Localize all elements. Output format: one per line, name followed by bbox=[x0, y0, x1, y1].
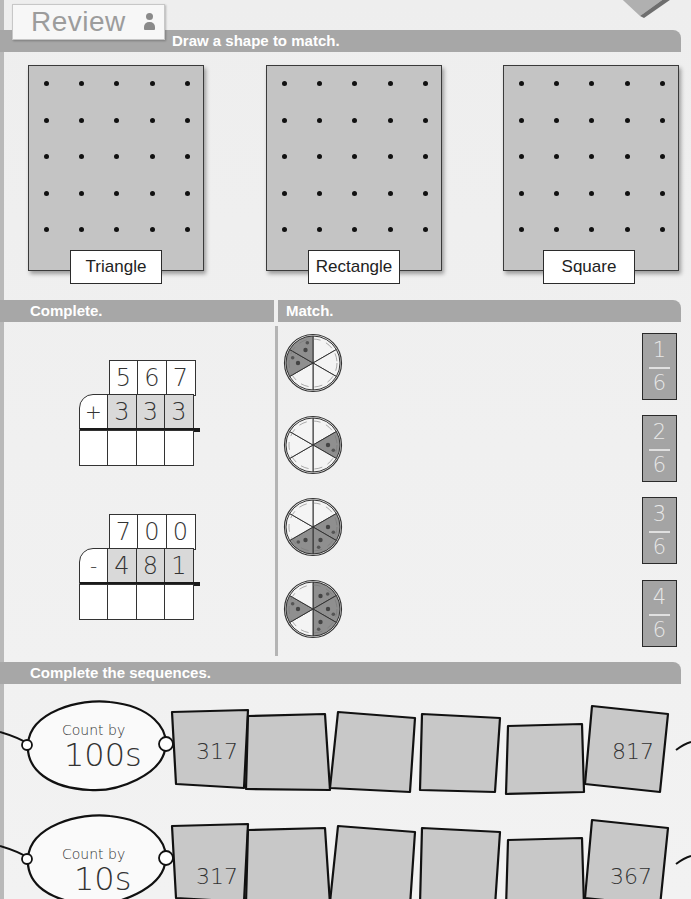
geoboard-peg[interactable] bbox=[388, 81, 393, 86]
geoboard-peg[interactable] bbox=[79, 81, 84, 86]
geoboard-peg[interactable] bbox=[519, 191, 524, 196]
geoboard-peg[interactable] bbox=[519, 154, 524, 159]
geoboard-peg[interactable] bbox=[660, 81, 665, 86]
geoboard-peg[interactable] bbox=[185, 191, 190, 196]
sequence-box[interactable] bbox=[420, 828, 500, 899]
geoboard-peg[interactable] bbox=[44, 81, 49, 86]
pizza-3-sixths[interactable] bbox=[283, 497, 343, 557]
geoboard-peg[interactable] bbox=[317, 154, 322, 159]
geoboard-peg[interactable] bbox=[554, 81, 559, 86]
geoboard-peg[interactable] bbox=[625, 118, 630, 123]
geoboard-peg[interactable] bbox=[79, 118, 84, 123]
geoboard-peg[interactable] bbox=[625, 191, 630, 196]
geoboard-peg[interactable] bbox=[79, 227, 84, 232]
geoboard-peg[interactable] bbox=[114, 227, 119, 232]
geoboard-peg[interactable] bbox=[282, 227, 287, 232]
geoboard-peg[interactable] bbox=[589, 81, 594, 86]
geoboard-peg[interactable] bbox=[282, 81, 287, 86]
geoboard-peg[interactable] bbox=[554, 118, 559, 123]
geoboard-square[interactable] bbox=[503, 65, 679, 271]
geoboard-peg[interactable] bbox=[317, 191, 322, 196]
geoboard-peg[interactable] bbox=[150, 154, 155, 159]
geoboard-peg[interactable] bbox=[660, 227, 665, 232]
sequence-box[interactable] bbox=[330, 826, 415, 899]
answer-cell-thousands[interactable] bbox=[79, 430, 109, 466]
geoboard-peg[interactable] bbox=[114, 81, 119, 86]
geoboard-peg[interactable] bbox=[352, 118, 357, 123]
geoboard-peg[interactable] bbox=[317, 227, 322, 232]
geoboard-peg[interactable] bbox=[589, 154, 594, 159]
geoboard-peg[interactable] bbox=[625, 227, 630, 232]
pizza-4-sixths[interactable] bbox=[283, 579, 343, 639]
geoboard-peg[interactable] bbox=[352, 227, 357, 232]
geoboard-peg[interactable] bbox=[114, 191, 119, 196]
geoboard-peg[interactable] bbox=[554, 154, 559, 159]
geoboard-peg[interactable] bbox=[44, 227, 49, 232]
geoboard-peg[interactable] bbox=[282, 191, 287, 196]
geoboard-peg[interactable] bbox=[150, 81, 155, 86]
geoboard-peg[interactable] bbox=[423, 81, 428, 86]
geoboard-peg[interactable] bbox=[423, 227, 428, 232]
sequence-box[interactable] bbox=[506, 838, 584, 899]
geoboard-peg[interactable] bbox=[114, 154, 119, 159]
geoboard-peg[interactable] bbox=[185, 227, 190, 232]
geoboard-peg[interactable] bbox=[317, 118, 322, 123]
geoboard-rectangle[interactable] bbox=[266, 65, 442, 271]
geoboard-peg[interactable] bbox=[423, 191, 428, 196]
fraction-card-3-6[interactable]: 3 6 bbox=[642, 497, 677, 564]
answer-cell-ones[interactable] bbox=[164, 584, 194, 620]
geoboard-peg[interactable] bbox=[554, 191, 559, 196]
sequence-box[interactable] bbox=[246, 714, 330, 790]
geoboard-peg[interactable] bbox=[282, 154, 287, 159]
geoboard-peg[interactable] bbox=[388, 227, 393, 232]
geoboard-peg[interactable] bbox=[185, 154, 190, 159]
geoboard-peg[interactable] bbox=[150, 118, 155, 123]
pizza-1-sixth[interactable] bbox=[283, 415, 343, 475]
geoboard-peg[interactable] bbox=[79, 154, 84, 159]
geoboard-peg[interactable] bbox=[519, 227, 524, 232]
geoboard-peg[interactable] bbox=[660, 191, 665, 196]
geoboard-peg[interactable] bbox=[282, 118, 287, 123]
fraction-card-2-6[interactable]: 2 6 bbox=[642, 415, 677, 482]
geoboard-peg[interactable] bbox=[185, 118, 190, 123]
answer-cell-hundreds[interactable] bbox=[107, 430, 137, 466]
geoboard-peg[interactable] bbox=[589, 227, 594, 232]
geoboard-peg[interactable] bbox=[423, 118, 428, 123]
geoboard-peg[interactable] bbox=[660, 154, 665, 159]
geoboard-peg[interactable] bbox=[44, 154, 49, 159]
geoboard-peg[interactable] bbox=[352, 81, 357, 86]
geoboard-peg[interactable] bbox=[589, 191, 594, 196]
answer-cell-ones[interactable] bbox=[164, 430, 194, 466]
geoboard-peg[interactable] bbox=[352, 191, 357, 196]
geoboard-peg[interactable] bbox=[150, 191, 155, 196]
geoboard-peg[interactable] bbox=[44, 191, 49, 196]
sequence-box[interactable] bbox=[506, 724, 584, 794]
sequence-box[interactable] bbox=[330, 712, 415, 792]
geoboard-peg[interactable] bbox=[388, 154, 393, 159]
sequence-box[interactable] bbox=[246, 828, 330, 899]
geoboard-peg[interactable] bbox=[423, 154, 428, 159]
geoboard-peg[interactable] bbox=[317, 81, 322, 86]
geoboard-peg[interactable] bbox=[388, 191, 393, 196]
geoboard-peg[interactable] bbox=[150, 227, 155, 232]
answer-cell-thousands[interactable] bbox=[79, 584, 109, 620]
geoboard-peg[interactable] bbox=[352, 154, 357, 159]
geoboard-peg[interactable] bbox=[589, 118, 594, 123]
geoboard-peg[interactable] bbox=[114, 118, 119, 123]
answer-cell-tens[interactable] bbox=[136, 584, 166, 620]
answer-cell-tens[interactable] bbox=[136, 430, 166, 466]
geoboard-triangle[interactable] bbox=[28, 65, 204, 271]
geoboard-peg[interactable] bbox=[554, 227, 559, 232]
geoboard-peg[interactable] bbox=[44, 118, 49, 123]
fraction-card-4-6[interactable]: 4 6 bbox=[642, 580, 677, 647]
geoboard-peg[interactable] bbox=[519, 81, 524, 86]
geoboard-peg[interactable] bbox=[625, 154, 630, 159]
geoboard-peg[interactable] bbox=[660, 118, 665, 123]
sequence-box[interactable] bbox=[420, 714, 500, 792]
fraction-card-1-6[interactable]: 1 6 bbox=[642, 333, 677, 400]
geoboard-peg[interactable] bbox=[388, 118, 393, 123]
geoboard-peg[interactable] bbox=[185, 81, 190, 86]
answer-cell-hundreds[interactable] bbox=[107, 584, 137, 620]
geoboard-peg[interactable] bbox=[79, 191, 84, 196]
pizza-2-sixths[interactable] bbox=[283, 333, 343, 393]
